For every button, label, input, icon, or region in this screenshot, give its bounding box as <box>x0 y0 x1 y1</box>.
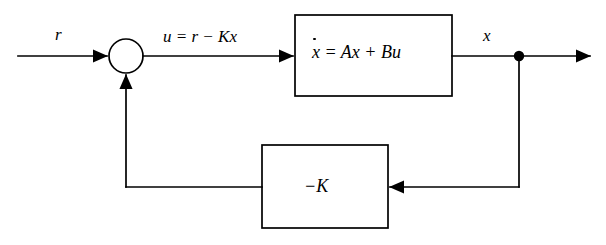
diagram-canvas <box>0 0 606 245</box>
plant-equation-label: x = Ax + Bu <box>312 43 401 61</box>
feedback-gain-label: −K <box>304 177 328 195</box>
plant-equation-rest: = Ax + Bu <box>320 42 401 62</box>
block-diagram: r u = r − Kx x x = Ax + Bu −K <box>0 0 606 245</box>
state-signal-label: x <box>483 27 491 44</box>
control-signal-label: u = r − Kx <box>163 28 237 45</box>
reference-signal-label: r <box>55 26 62 43</box>
x-dot-base: x <box>312 42 320 62</box>
signal-takeoff-dot <box>514 51 524 61</box>
summing-junction-circle <box>109 39 143 73</box>
x-dot-symbol: x <box>312 43 320 61</box>
